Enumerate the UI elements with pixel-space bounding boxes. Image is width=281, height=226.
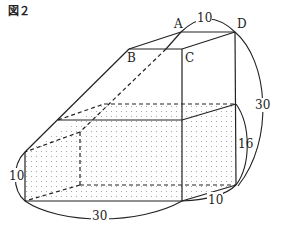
geometry-figure: 図２ <box>0 0 281 226</box>
dim-bottom-length: 30 <box>92 209 107 223</box>
dim-water-height-front: 10 <box>9 169 24 183</box>
top-face <box>129 32 235 49</box>
dim-bottom-depth: 10 <box>208 193 223 207</box>
figure-title: 図２ <box>8 4 30 18</box>
water-region <box>25 104 236 201</box>
dim-right-height: 30 <box>255 98 270 112</box>
vertex-label-a: A <box>173 17 183 31</box>
dim-top-ad: 10 <box>197 11 212 25</box>
vertex-label-c: C <box>185 51 194 65</box>
dim-water-height-back: 16 <box>238 137 253 151</box>
vertex-label-b: B <box>127 51 136 65</box>
vertex-label-d: D <box>237 17 247 31</box>
